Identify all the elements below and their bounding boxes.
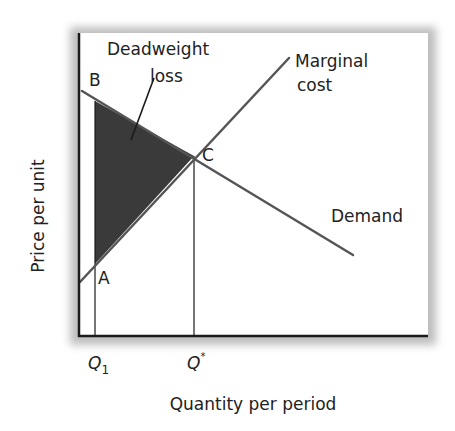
qstar-tick-label: Q* (187, 351, 205, 373)
deadweight-label: Deadweight (107, 39, 209, 59)
point-c-label: C (202, 145, 214, 165)
q1-tick-label: Q1 (88, 353, 109, 377)
cost-label: cost (297, 75, 333, 95)
loss-label: loss (150, 66, 183, 86)
point-a-label: A (98, 268, 110, 288)
deadweight-loss-diagram: Deadweight loss Marginal cost Demand B C… (0, 0, 455, 431)
demand-label: Demand (331, 206, 403, 226)
x-axis-title: Quantity per period (170, 394, 337, 414)
marginal-label: Marginal (295, 51, 368, 71)
y-axis-title: Price per unit (28, 159, 48, 273)
point-b-label: B (89, 70, 101, 90)
